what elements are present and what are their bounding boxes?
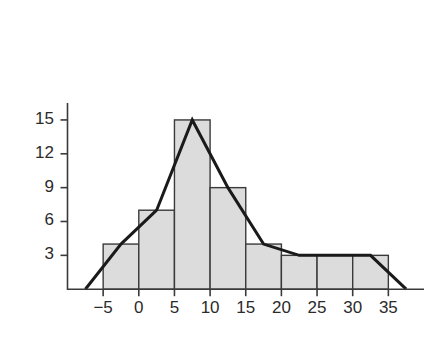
histogram-bar — [103, 244, 139, 289]
y-axis-ticks — [61, 120, 68, 255]
x-axis-ticks — [103, 289, 388, 296]
y-axis-tick-label: 15 — [12, 109, 54, 129]
histogram-chart: 3691215 −505101520253035 — [0, 0, 436, 339]
histogram-bars — [103, 120, 388, 289]
y-axis-tick-label: 9 — [12, 177, 54, 197]
chart-plot-area — [0, 0, 436, 339]
histogram-bar — [210, 188, 246, 290]
y-axis-tick-label: 6 — [12, 210, 54, 230]
y-axis-tick-label: 3 — [12, 244, 54, 264]
y-axis-tick-label: 12 — [12, 143, 54, 163]
histogram-bar — [353, 255, 389, 289]
histogram-bar — [317, 255, 353, 289]
histogram-bar — [281, 255, 317, 289]
histogram-bar — [246, 244, 282, 289]
x-axis-tick-label: 35 — [363, 298, 413, 318]
